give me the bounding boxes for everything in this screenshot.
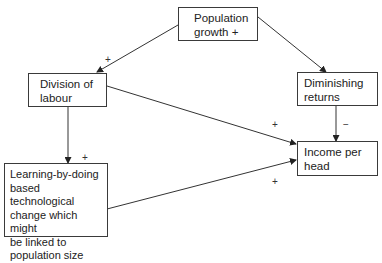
sign-learning-income: + [272, 177, 278, 187]
node-population-growth-label: Population growth + [194, 12, 257, 39]
sign-diminishing-income: − [343, 120, 349, 130]
node-diminishing-returns: Diminishing returns [297, 72, 378, 106]
arrow-population-to-diminishing [258, 17, 326, 72]
arrow-learning-to-income [107, 160, 296, 209]
sign-division-income: + [272, 120, 278, 130]
arrow-division-to-income [107, 86, 296, 144]
node-income-per-head-label: Income per head [304, 146, 377, 173]
node-diminishing-returns-label: Diminishing returns [304, 77, 377, 104]
sign-population-division: + [105, 55, 111, 65]
node-division-of-labour: Division of labour [28, 73, 107, 107]
node-learning-by-doing: Learning-by-doing based technological ch… [4, 163, 108, 237]
node-income-per-head: Income per head [297, 141, 378, 176]
node-learning-by-doing-label: Learning-by-doing based technological ch… [10, 168, 107, 263]
sign-division-learning: + [82, 153, 88, 163]
node-division-of-labour-label: Division of labour [40, 78, 106, 105]
node-population-growth: Population growth + [178, 7, 258, 41]
